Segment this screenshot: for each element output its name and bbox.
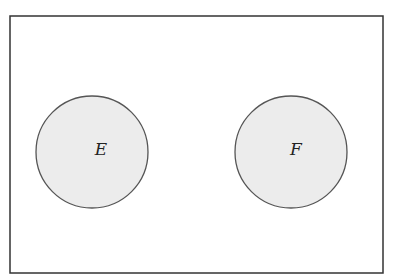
venn-diagram: E F (0, 0, 394, 279)
set-f-label: F (289, 139, 303, 159)
set-e: E (36, 96, 148, 208)
set-f: F (235, 96, 347, 208)
set-e-circle (36, 96, 148, 208)
set-e-label: E (94, 139, 108, 159)
